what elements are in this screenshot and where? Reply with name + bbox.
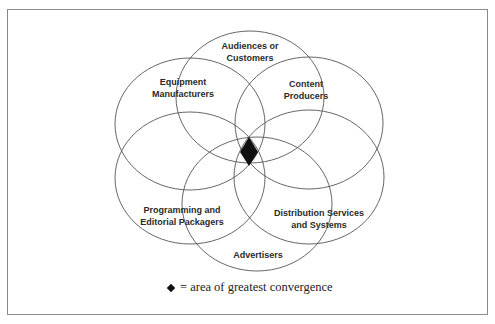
label-distribution-services: Distribution Services and Systems <box>274 207 364 231</box>
label-programming-packagers: Programming and Editorial Packagers <box>140 204 224 228</box>
circle-content-producers <box>235 57 383 189</box>
label-audiences: Audiences or Customers <box>221 40 278 64</box>
legend: = area of greatest convergence <box>166 280 333 295</box>
legend-text: = area of greatest convergence <box>180 280 333 295</box>
diamond-icon <box>167 283 175 291</box>
label-content-producers: Content Producers <box>284 78 329 102</box>
convergence-diamond-icon <box>240 137 258 166</box>
label-advertisers: Advertisers <box>233 249 283 261</box>
label-equipment-manufacturers: Equipment Manufacturers <box>152 76 214 100</box>
